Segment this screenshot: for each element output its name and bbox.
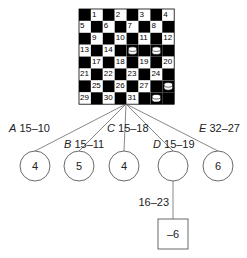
square-number: 30 [104, 93, 113, 102]
dark-square [127, 57, 139, 69]
node-value: 4 [121, 160, 127, 172]
game-tree-diagram: 1234567891011121314171819202122232425262… [0, 0, 247, 258]
square-number: 17 [92, 57, 101, 66]
dark-square [79, 33, 91, 45]
dark-square [139, 92, 151, 104]
dark-square [79, 80, 91, 92]
square-number: 9 [92, 33, 97, 42]
square-number: 24 [151, 69, 160, 78]
checker-piece [128, 47, 137, 55]
square-number: 12 [163, 33, 172, 42]
move-notation: 15–19 [161, 138, 195, 150]
dark-square [127, 80, 139, 92]
square-number: 8 [151, 21, 156, 30]
move-letter: A [8, 122, 16, 134]
dark-square [127, 33, 139, 45]
move-label-b: B 15–11 [64, 138, 104, 150]
square-number: 10 [116, 33, 125, 42]
checker-piece [164, 83, 173, 91]
move-letter: B [64, 138, 71, 150]
dark-square [115, 92, 127, 104]
move-label-e: E 32–27 [199, 122, 240, 134]
reply-node-value: –6 [167, 228, 179, 240]
move-label-c: C 15–18 [107, 122, 149, 134]
square-number: 23 [128, 69, 137, 78]
dark-square [162, 92, 174, 104]
checker-piece [152, 94, 161, 102]
tree-nodes: A 15–104B 15–115C 15–184D 15–19E 32–2761… [8, 122, 240, 249]
square-number: 29 [80, 93, 89, 102]
square-number: 20 [163, 57, 172, 66]
dark-square [103, 80, 115, 92]
checker-piece [152, 47, 161, 55]
dark-square [150, 57, 162, 69]
move-label-a: A 15–10 [8, 122, 50, 134]
dark-square [150, 80, 162, 92]
dark-square [162, 69, 174, 81]
dark-square [103, 9, 115, 21]
dark-square [103, 33, 115, 45]
square-number: 27 [140, 81, 149, 90]
square-number: 31 [128, 93, 137, 102]
square-number: 26 [116, 81, 125, 90]
square-number: 22 [104, 69, 113, 78]
square-number: 19 [140, 57, 149, 66]
dark-square [91, 69, 103, 81]
dark-square [139, 45, 151, 57]
dark-square [79, 57, 91, 69]
square-number: 13 [80, 45, 89, 54]
square-number: 11 [140, 33, 149, 42]
dark-square [162, 45, 174, 57]
square-number: 21 [80, 69, 89, 78]
dark-square [162, 21, 174, 33]
node-circle-d [158, 151, 188, 181]
move-letter: D [153, 138, 161, 150]
square-number: 2 [116, 10, 121, 19]
move-letter: C [107, 122, 115, 134]
move-notation: 15–18 [115, 122, 149, 134]
dark-square [91, 92, 103, 104]
square-number: 4 [163, 10, 168, 19]
dark-square [139, 69, 151, 81]
square-number: 14 [104, 45, 113, 54]
dark-square [103, 57, 115, 69]
dark-square [127, 9, 139, 21]
dark-square [115, 69, 127, 81]
dark-square [91, 21, 103, 33]
dark-square [150, 9, 162, 21]
square-number: 3 [140, 10, 145, 19]
square-number: 7 [128, 21, 133, 30]
dark-square [79, 9, 91, 21]
reply-move-label: 16–23 [138, 196, 169, 208]
square-number: 5 [80, 21, 85, 30]
square-number: 25 [92, 81, 101, 90]
dark-square [139, 21, 151, 33]
checkerboard: 1234567891011121314171819202122232425262… [79, 9, 174, 104]
move-label-d: D 15–19 [153, 138, 195, 150]
move-notation: 15–10 [16, 122, 50, 134]
node-value: 5 [76, 160, 82, 172]
node-value: 4 [32, 160, 38, 172]
move-notation: 15–11 [71, 138, 104, 150]
dark-square [115, 21, 127, 33]
dark-square [150, 33, 162, 45]
move-notation: 32–27 [206, 122, 240, 134]
square-number: 18 [116, 57, 125, 66]
node-value: 6 [215, 160, 221, 172]
dark-square [115, 45, 127, 57]
square-number: 6 [104, 21, 109, 30]
dark-square [91, 45, 103, 57]
square-number: 1 [92, 10, 97, 19]
